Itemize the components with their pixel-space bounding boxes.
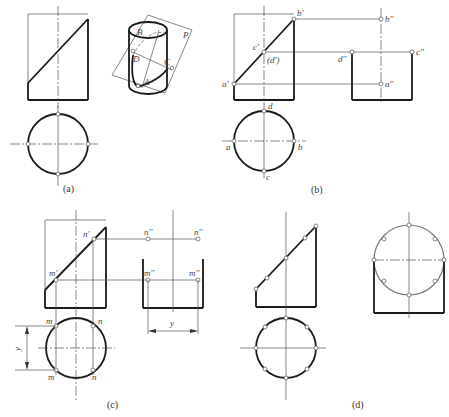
label-b-prime: b' <box>297 8 305 18</box>
panel-a: B P D C A (a) <box>10 6 192 195</box>
dimension-y-top: y <box>12 347 22 352</box>
iso-label-p: P <box>182 30 189 40</box>
iso-label-c: C <box>164 57 171 67</box>
label-b-double-prime: b'' <box>385 14 394 24</box>
panel-b-front-view: b' c' (d') a' <box>222 6 412 104</box>
panel-c: n' m' n'' n'' m'' m'' y <box>12 210 203 411</box>
panel-b: b' c' (d') a' b'' d'' c'' a'' <box>222 6 425 196</box>
panel-b-side-view: b'' d'' c'' a'' <box>338 8 425 104</box>
label-d-double-prime: d'' <box>338 54 347 64</box>
panel-c-front-view: n' m' <box>45 210 198 400</box>
label-b: b <box>298 142 303 152</box>
panel-a-top-view <box>10 106 98 186</box>
label-n-prime: n' <box>83 229 91 239</box>
panel-a-isometric-cylinder: B P D C A <box>112 15 192 94</box>
label-c-prime: c' <box>253 42 260 52</box>
caption-c: (c) <box>107 399 118 411</box>
label-m-bottom: m <box>48 372 55 382</box>
caption-b: (b) <box>311 184 323 196</box>
panel-c-side-view: n'' n'' m'' m'' y <box>143 210 203 334</box>
panel-c-top-view: m n m n y <box>12 316 115 382</box>
label-a-double-prime: a'' <box>385 79 394 89</box>
caption-d: (d) <box>352 399 364 411</box>
panel-a-front-view <box>28 6 88 108</box>
label-n-top: n <box>98 316 103 326</box>
label-m-double-prime-right: m'' <box>189 268 200 278</box>
panel-d-front-view <box>254 212 318 400</box>
label-c: c <box>266 172 270 182</box>
panel-d: (d) <box>240 212 446 411</box>
panel-b-top-view: d a b c <box>222 101 306 182</box>
label-c-double-prime: c'' <box>416 47 425 57</box>
iso-label-d: D <box>132 54 140 64</box>
panel-d-top-view <box>240 316 326 380</box>
iso-label-a: A <box>143 77 150 87</box>
caption-a: (a) <box>63 183 74 195</box>
label-d: d <box>268 101 273 111</box>
label-d-prime: (d') <box>267 55 279 65</box>
label-m-double-prime-left: m'' <box>144 268 155 278</box>
iso-label-b: B <box>137 27 143 37</box>
label-m-top: m <box>46 316 53 326</box>
projection-drawing: B P D C A (a) b' c' (d') a' <box>0 0 449 417</box>
label-m-prime: m' <box>49 268 58 278</box>
label-a: a <box>226 142 231 152</box>
panel-d-side-view <box>372 212 446 318</box>
dimension-y-side: y <box>169 318 174 328</box>
label-n-double-prime-right: n'' <box>194 227 203 237</box>
label-n-double-prime-left: n'' <box>144 227 153 237</box>
label-n-bottom: n <box>92 372 97 382</box>
label-a-prime: a' <box>222 79 230 89</box>
